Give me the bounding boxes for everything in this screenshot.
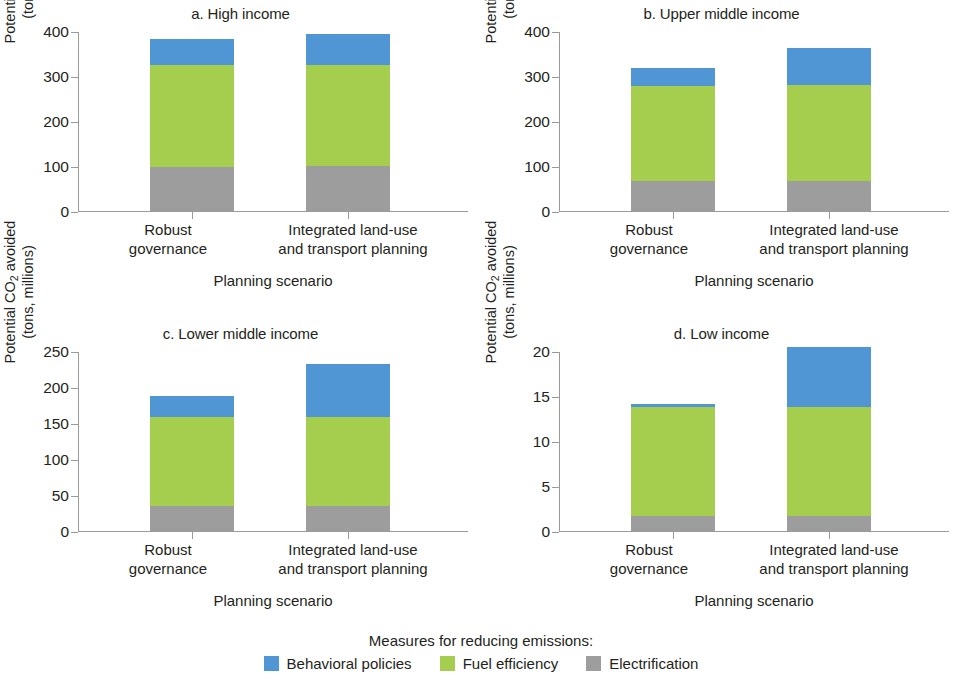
- bar-segment-fuel-efficiency[interactable]: [306, 417, 390, 506]
- y-tick-label: 250: [43, 342, 69, 362]
- legend-item-electrification[interactable]: Electrification: [586, 655, 698, 672]
- bar-segment-electrification[interactable]: [631, 516, 715, 531]
- plot-area-c: 050100150200250: [78, 352, 468, 532]
- bar-a-1[interactable]: [150, 39, 234, 211]
- x-tick-label-line: Integrated land-use: [228, 540, 478, 559]
- x-tick-label-line: Integrated land-use: [709, 540, 959, 559]
- bar-b-2[interactable]: [787, 48, 871, 211]
- bar-segment-behavioral-policies[interactable]: [306, 364, 390, 417]
- bar-a-2[interactable]: [306, 34, 390, 211]
- bar-segment-behavioral-policies[interactable]: [150, 39, 234, 65]
- y-tick-label: 15: [533, 387, 550, 407]
- bar-segment-fuel-efficiency[interactable]: [787, 85, 871, 180]
- y-axis-label-d: Potential CO2 avoided(tons, millions): [483, 202, 517, 382]
- y-tick-label: 0: [60, 202, 69, 222]
- x-axis-label-d: Planning scenario: [559, 592, 949, 609]
- y-tick-label: 300: [524, 67, 550, 87]
- y-axis-line: [559, 352, 560, 532]
- bar-segment-behavioral-policies[interactable]: [306, 34, 390, 65]
- bar-segment-behavioral-policies[interactable]: [787, 48, 871, 86]
- y-tick: [71, 532, 78, 533]
- y-tick-label: 10: [533, 432, 550, 452]
- x-axis-label-c: Planning scenario: [78, 592, 468, 609]
- y-tick-label: 0: [541, 202, 550, 222]
- panel-d: d. Low incomePotential CO2 avoided(tons,…: [481, 320, 962, 640]
- legend-title: Measures for reducing emissions:: [0, 632, 962, 649]
- bar-segment-electrification[interactable]: [787, 516, 871, 531]
- x-axis-line: [78, 211, 468, 212]
- y-tick-label: 20: [533, 342, 550, 362]
- panel-c: c. Lower middle incomePotential CO2 avoi…: [0, 320, 481, 640]
- panel-grid: a. High incomePotential CO2 avoided(tons…: [0, 0, 962, 640]
- bar-segment-behavioral-policies[interactable]: [631, 68, 715, 86]
- y-tick: [552, 487, 559, 488]
- bar-segment-fuel-efficiency[interactable]: [150, 417, 234, 506]
- y-tick: [552, 397, 559, 398]
- bar-segment-electrification[interactable]: [150, 167, 234, 211]
- y-tick: [552, 32, 559, 33]
- x-tick: [829, 532, 830, 539]
- legend-item-fuel[interactable]: Fuel efficiency: [440, 655, 559, 672]
- bar-segment-fuel-efficiency[interactable]: [631, 86, 715, 181]
- x-tick-label-line: Integrated land-use: [228, 220, 478, 239]
- x-tick-label-line: and transport planning: [709, 559, 959, 578]
- panel-title-a: a. High income: [0, 5, 481, 22]
- x-tick-label-2: Integrated land-useand transport plannin…: [709, 220, 959, 258]
- y-tick: [71, 460, 78, 461]
- y-tick: [552, 77, 559, 78]
- y-tick-label: 50: [52, 486, 69, 506]
- y-tick-label: 400: [43, 22, 69, 42]
- legend-swatch-fuel: [440, 656, 455, 671]
- legend-label-fuel: Fuel efficiency: [463, 655, 559, 672]
- bar-segment-electrification[interactable]: [306, 506, 390, 531]
- legend-item-behavioral[interactable]: Behavioral policies: [264, 655, 412, 672]
- y-tick-label: 5: [541, 477, 550, 497]
- bar-segment-fuel-efficiency[interactable]: [306, 65, 390, 167]
- bar-segment-fuel-efficiency[interactable]: [787, 407, 871, 516]
- y-tick: [71, 212, 78, 213]
- bar-segment-behavioral-policies[interactable]: [150, 396, 234, 418]
- y-tick-label: 300: [43, 67, 69, 87]
- bar-segment-electrification[interactable]: [150, 506, 234, 531]
- bar-segment-fuel-efficiency[interactable]: [631, 407, 715, 516]
- y-axis-label-b: Potential CO2 avoided(tons, millions): [483, 0, 517, 62]
- panel-title-b: b. Upper middle income: [481, 5, 962, 22]
- y-tick-label: 400: [524, 22, 550, 42]
- y-tick: [71, 388, 78, 389]
- bar-b-1[interactable]: [631, 68, 715, 211]
- y-axis-line: [559, 32, 560, 212]
- y-axis-label-a: Potential CO2 avoided(tons, millions): [2, 0, 36, 62]
- panel-b: b. Upper middle incomePotential CO2 avoi…: [481, 0, 962, 320]
- bar-segment-behavioral-policies[interactable]: [787, 347, 871, 407]
- bar-segment-electrification[interactable]: [306, 166, 390, 211]
- bar-segment-electrification[interactable]: [787, 181, 871, 211]
- bar-d-1[interactable]: [631, 404, 715, 531]
- y-tick: [71, 496, 78, 497]
- y-tick-label: 100: [43, 157, 69, 177]
- legend-label-electrification: Electrification: [609, 655, 698, 672]
- y-tick: [71, 77, 78, 78]
- legend-swatch-behavioral: [264, 656, 279, 671]
- y-tick: [552, 167, 559, 168]
- x-tick-label-2: Integrated land-useand transport plannin…: [228, 540, 478, 578]
- x-tick-label-2: Integrated land-useand transport plannin…: [228, 220, 478, 258]
- bar-c-2[interactable]: [306, 364, 390, 531]
- panel-title-c: c. Lower middle income: [0, 325, 481, 342]
- x-axis-line: [78, 531, 468, 532]
- bar-c-1[interactable]: [150, 396, 234, 531]
- stacked-bar-figure: a. High incomePotential CO2 avoided(tons…: [0, 0, 962, 686]
- y-tick: [552, 212, 559, 213]
- x-tick-label-2: Integrated land-useand transport plannin…: [709, 540, 959, 578]
- y-tick: [552, 532, 559, 533]
- plot-area-b: 0100200300400: [559, 32, 949, 212]
- x-tick-label-line: and transport planning: [228, 559, 478, 578]
- bar-d-2[interactable]: [787, 347, 871, 531]
- x-axis-label-a: Planning scenario: [78, 272, 468, 289]
- x-tick: [192, 212, 193, 219]
- y-tick-label: 0: [541, 522, 550, 542]
- bar-segment-electrification[interactable]: [631, 181, 715, 211]
- y-tick: [71, 424, 78, 425]
- y-tick-label: 150: [43, 414, 69, 434]
- y-tick-label: 200: [43, 112, 69, 132]
- bar-segment-fuel-efficiency[interactable]: [150, 65, 234, 168]
